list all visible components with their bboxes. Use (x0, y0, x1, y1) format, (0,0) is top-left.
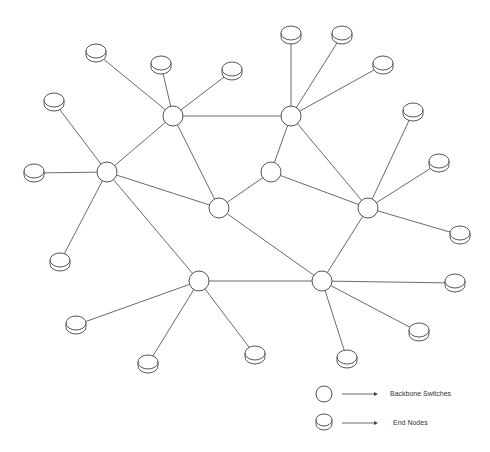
links-layer (34, 35, 460, 364)
backbone-switch[interactable] (281, 106, 301, 126)
arrow-head-icon (374, 392, 378, 396)
end-node-top (332, 26, 352, 40)
end-node[interactable] (403, 103, 423, 121)
access-link (34, 172, 107, 173)
backbone-link (173, 116, 219, 208)
end-node-top (50, 253, 70, 267)
access-link (368, 208, 460, 235)
legend: Backbone Switches End Nodes (316, 386, 452, 430)
end-node-top (222, 62, 242, 76)
end-node-top (245, 346, 265, 360)
arrow-head-icon (374, 421, 378, 425)
end-node-icon-top (316, 414, 332, 426)
end-node-top (409, 323, 429, 337)
legend-item-backbone-switch: Backbone Switches (316, 386, 452, 402)
backbone-link (322, 208, 368, 281)
end-node[interactable] (429, 154, 449, 172)
end-node[interactable] (151, 56, 171, 74)
end-node-top (403, 103, 423, 117)
end-node[interactable] (86, 44, 106, 62)
end-node[interactable] (409, 323, 429, 341)
end-node[interactable] (337, 350, 357, 368)
backbone-switch[interactable] (209, 198, 229, 218)
end-node[interactable] (222, 62, 242, 80)
end-node-top (450, 226, 470, 240)
end-node-top (138, 355, 158, 369)
end-node-top (86, 44, 106, 58)
end-node[interactable] (245, 346, 265, 364)
end-node[interactable] (332, 26, 352, 44)
end-node[interactable] (445, 274, 465, 292)
legend-item-end-node: End Nodes (316, 414, 428, 430)
access-link (54, 102, 107, 172)
access-link (322, 281, 455, 283)
end-node[interactable] (138, 355, 158, 373)
end-nodes-layer (24, 26, 470, 373)
legend-label-end-nodes: End Nodes (393, 419, 428, 426)
access-link (173, 71, 232, 116)
access-link (291, 65, 383, 116)
backbone-switch[interactable] (358, 198, 378, 218)
access-link (322, 281, 419, 332)
end-node[interactable] (66, 316, 86, 334)
end-node-top (24, 164, 44, 178)
end-node[interactable] (450, 226, 470, 244)
backbone-switch-icon (316, 386, 332, 402)
access-link (60, 172, 107, 262)
end-node-top (337, 350, 357, 364)
backbone-link (107, 172, 199, 281)
switches-layer (97, 106, 378, 291)
end-node-top (373, 56, 393, 70)
end-node-top (429, 154, 449, 168)
backbone-switch[interactable] (97, 162, 117, 182)
end-node-top (445, 274, 465, 288)
network-diagram: Backbone Switches End Nodes (0, 0, 490, 452)
end-node-top (281, 26, 301, 40)
access-link (199, 281, 255, 355)
end-node[interactable] (44, 93, 64, 111)
access-link (291, 35, 342, 116)
end-node[interactable] (281, 26, 301, 44)
backbone-link (219, 208, 322, 281)
end-node-top (44, 93, 64, 107)
end-node[interactable] (50, 253, 70, 271)
end-node-top (151, 56, 171, 70)
backbone-switch[interactable] (163, 106, 183, 126)
backbone-switch[interactable] (189, 271, 209, 291)
end-node[interactable] (24, 164, 44, 182)
backbone-link (107, 116, 173, 172)
access-link (76, 281, 199, 325)
legend-label-backbone: Backbone Switches (390, 390, 452, 397)
end-node-top (66, 316, 86, 330)
end-node[interactable] (373, 56, 393, 74)
backbone-switch[interactable] (312, 271, 332, 291)
access-link (148, 281, 199, 364)
backbone-link (107, 172, 219, 208)
backbone-switch[interactable] (261, 162, 281, 182)
